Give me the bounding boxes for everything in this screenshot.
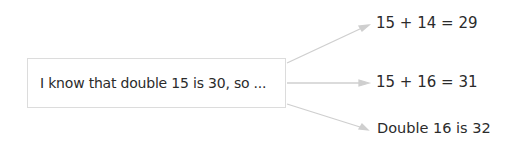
outcome-2: 15 + 16 = 31	[376, 73, 477, 91]
outcome-3: Double 16 is 32	[377, 120, 491, 136]
source-statement-box: I know that double 15 is 30, so ...	[27, 58, 286, 108]
source-statement-text: I know that double 15 is 30, so ...	[40, 75, 266, 91]
outcome-1: 15 + 14 = 29	[376, 14, 477, 32]
arrowhead-2	[359, 80, 369, 86]
arrowhead-1	[359, 25, 369, 31]
arrowhead-3	[359, 124, 368, 130]
arrow-to-outcome-3	[287, 104, 360, 127]
arrow-to-outcome-1	[287, 28, 362, 63]
